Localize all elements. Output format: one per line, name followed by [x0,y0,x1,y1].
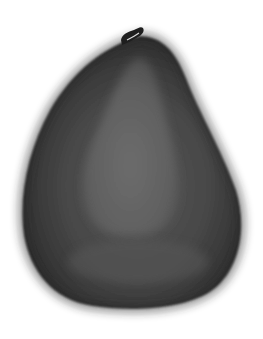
avocado-photo [0,0,263,339]
avocado-lower-highlight [68,240,208,284]
image-canvas: avocado fruit [0,0,263,339]
